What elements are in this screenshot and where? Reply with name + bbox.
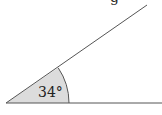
angle-diagram: 34° g	[0, 0, 162, 115]
top-label-fragment: g	[110, 0, 119, 5]
angle-label: 34°	[38, 84, 63, 100]
upper-ray	[6, 5, 147, 103]
